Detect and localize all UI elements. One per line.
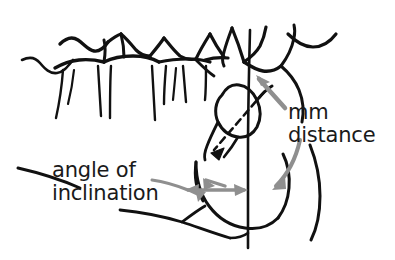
stroke-molar-3-cervical-line bbox=[159, 59, 210, 62]
stroke-mandible-body-inferior-border bbox=[196, 162, 278, 229]
stroke-molar-1-cervical bbox=[55, 60, 104, 68]
stroke-molar-3-root-distal bbox=[183, 66, 186, 102]
stroke-last-erupted-molar-crown-distal bbox=[244, 27, 266, 62]
stroke-molar-1-pulp bbox=[68, 70, 74, 104]
stroke-molar-3-root-mesial bbox=[164, 66, 166, 104]
mm-distance-label: mm distance bbox=[288, 102, 375, 146]
stroke-last-erupted-molar-crown bbox=[232, 28, 244, 62]
stroke-ramus-posterior-border bbox=[310, 145, 320, 240]
stroke-impacted-molar-outline bbox=[216, 85, 260, 137]
dental-tracing-figure: mm distance angle of inclination bbox=[0, 0, 395, 260]
stroke-molar-1-root-mesial bbox=[56, 70, 63, 118]
stroke-molar-2-mesial-slope bbox=[108, 34, 121, 42]
stroke-molar-4-crown-left-slope bbox=[196, 34, 210, 59]
stroke-molar-3-root-extra bbox=[173, 68, 176, 100]
stroke-maxillary-alveolar-crest-left bbox=[22, 58, 73, 73]
stroke-impacted-molar-long-axis-dashed bbox=[214, 92, 264, 150]
stroke-molar-1-distal-wall bbox=[104, 40, 105, 62]
stroke-molar-1-root-distal bbox=[98, 66, 101, 116]
angle-of-inclination-label: angle of inclination bbox=[52, 160, 159, 204]
mm-distance-curved-arrow-head-icon bbox=[272, 176, 286, 190]
mm-distance-label-line1: mm bbox=[288, 100, 329, 124]
stroke-molar-4-cervical bbox=[205, 58, 228, 60]
stroke-gonial-tick bbox=[230, 233, 248, 238]
stroke-molar-3-crown-left-slope bbox=[150, 38, 164, 56]
stroke-ramus-anterior-border bbox=[281, 25, 295, 66]
stroke-molar-2-root-distal bbox=[152, 66, 155, 120]
angle-inclination-arrow-head-right-icon bbox=[234, 184, 248, 196]
stroke-molar-3-crown-right-slope bbox=[164, 38, 196, 59]
angle-of-inclination-label-line1: angle of bbox=[52, 158, 136, 182]
stroke-molar-crown-1-outline bbox=[60, 38, 108, 51]
stroke-antegonial-notch bbox=[182, 206, 205, 222]
stroke-vertical-reference-line bbox=[248, 30, 250, 248]
stroke-last-erupted-molar-mesial-curve bbox=[223, 28, 233, 66]
stroke-mandible-lower-border-left bbox=[120, 210, 230, 238]
stroke-impacted-molar-root-taper-2 bbox=[224, 137, 238, 157]
stroke-molar-4-crown-right-slope bbox=[210, 34, 224, 57]
stroke-molar-2-root-mesial bbox=[110, 66, 111, 118]
mm-distance-label-line2: distance bbox=[288, 125, 375, 146]
angle-of-inclination-label-line2: inclination bbox=[52, 183, 159, 204]
